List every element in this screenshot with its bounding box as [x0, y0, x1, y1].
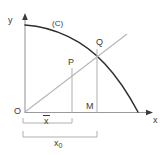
- ray-from-origin: [25, 34, 127, 112]
- x-axis-arrowhead: [146, 110, 153, 116]
- origin-label: O: [14, 107, 21, 116]
- diagram-canvas: [0, 0, 166, 155]
- dimension-label-x-zero-subscript: 0: [59, 142, 63, 149]
- point-label-p: P: [68, 58, 74, 67]
- y-axis-label: y: [8, 16, 13, 25]
- y-axis-arrowhead: [22, 13, 28, 20]
- dimension-bracket-x-zero: [23, 131, 97, 137]
- x-axis-label: x: [153, 116, 158, 125]
- figure-container: y x O (C) P Q M x x0: [0, 0, 166, 155]
- curve-label: (C): [52, 20, 63, 28]
- dimension-label-x-zero: x0: [54, 139, 62, 149]
- dimension-label-x-bar-text: x: [43, 117, 50, 126]
- point-label-q: Q: [96, 38, 103, 47]
- point-label-m: M: [86, 102, 94, 111]
- dimension-label-x-bar: x: [43, 117, 50, 126]
